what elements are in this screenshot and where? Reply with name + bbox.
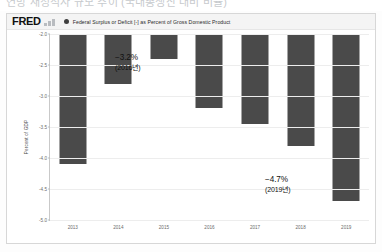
annotation-2019: −4.7% (2019년) bbox=[265, 175, 291, 194]
annotation-2019-year: (2019년) bbox=[265, 185, 291, 195]
bar[interactable] bbox=[196, 34, 223, 108]
annotation-2016-year: (2016년) bbox=[115, 63, 141, 73]
y-tick-label: -2.5 bbox=[39, 63, 47, 68]
y-tick-label: -4.0 bbox=[39, 156, 47, 161]
bar[interactable] bbox=[287, 34, 314, 146]
x-tick-label: 2016 bbox=[204, 225, 214, 230]
chart-legend[interactable]: Federal Surplus or Deficit [-] as Percen… bbox=[64, 19, 231, 25]
cropped-caption-text: 연방 재정적자 규모 추이 (국내총생산 대비 비율) bbox=[6, 0, 227, 9]
y-tick-label: -5.0 bbox=[39, 218, 47, 223]
x-tick-label: 2013 bbox=[68, 225, 78, 230]
annotation-2016-value: −3.2% bbox=[115, 53, 141, 63]
gridline bbox=[50, 34, 369, 35]
fred-logo: FRED bbox=[12, 16, 55, 27]
y-tick-mark bbox=[48, 96, 50, 97]
fred-bars-icon bbox=[44, 19, 55, 26]
y-tick-mark bbox=[48, 189, 50, 190]
chart-header: FRED Federal Surplus or Deficit [-] as P… bbox=[7, 14, 375, 30]
y-tick-label: -2.0 bbox=[39, 32, 47, 37]
y-tick-label: -4.5 bbox=[39, 187, 47, 192]
fred-logo-text: FRED bbox=[12, 15, 41, 27]
gridline bbox=[50, 220, 369, 221]
x-tick-label: 2018 bbox=[296, 225, 306, 230]
screenshot-root: 연방 재정적자 규모 추이 (국내총생산 대비 비율) FRED Federal… bbox=[0, 0, 382, 252]
x-tick-label: 2014 bbox=[113, 225, 123, 230]
legend-dot-icon bbox=[64, 19, 69, 24]
y-axis-title: Percent of GDP bbox=[24, 119, 29, 153]
legend-label: Federal Surplus or Deficit [-] as Percen… bbox=[73, 19, 231, 25]
y-tick-mark bbox=[48, 65, 50, 66]
plot-wrapper: Percent of GDP 2013201420152016201720182… bbox=[7, 30, 375, 243]
gridline bbox=[50, 158, 369, 159]
y-tick-mark bbox=[48, 127, 50, 128]
gridline bbox=[50, 65, 369, 66]
annotation-2019-value: −4.7% bbox=[265, 175, 291, 185]
y-tick-label: -3.5 bbox=[39, 125, 47, 130]
y-tick-mark bbox=[48, 158, 50, 159]
x-tick-label: 2017 bbox=[250, 225, 260, 230]
bar[interactable] bbox=[333, 34, 360, 201]
gridline bbox=[50, 96, 369, 97]
bar[interactable] bbox=[150, 34, 177, 59]
y-tick-mark bbox=[48, 220, 50, 221]
y-tick-mark bbox=[48, 34, 50, 35]
annotation-2016: −3.2% (2016년) bbox=[115, 53, 141, 72]
x-tick-label: 2015 bbox=[159, 225, 169, 230]
cropped-caption-strip: 연방 재정적자 규모 추이 (국내총생산 대비 비율) bbox=[0, 0, 382, 11]
gridline bbox=[50, 189, 369, 190]
fred-chart: FRED Federal Surplus or Deficit [-] as P… bbox=[6, 13, 376, 244]
bar[interactable] bbox=[59, 34, 86, 164]
gridline bbox=[50, 127, 369, 128]
plot-area: 2013201420152016201720182019 -2.0-2.5-3.… bbox=[49, 34, 369, 221]
x-tick-label: 2019 bbox=[341, 225, 351, 230]
y-tick-label: -3.0 bbox=[39, 94, 47, 99]
bar[interactable] bbox=[242, 34, 269, 124]
